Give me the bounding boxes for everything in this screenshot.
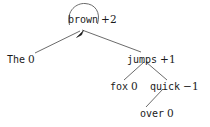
node-jumps[interactable]: jumps+1	[127, 54, 176, 65]
node-the-word: The	[7, 54, 25, 65]
node-quick-word: quick	[150, 81, 180, 92]
node-quick-score: −1	[183, 80, 198, 92]
edge-brown-the	[35, 31, 80, 53]
node-fox-word: fox	[110, 81, 128, 92]
node-jumps-score: +1	[160, 53, 175, 65]
node-over-score: 0	[167, 107, 174, 119]
edge-brown-jumps	[82, 30, 141, 52]
node-brown-word: brown	[68, 14, 98, 25]
node-over[interactable]: over0	[140, 108, 174, 119]
node-fox-score: 0	[131, 80, 138, 92]
node-the[interactable]: The0	[7, 54, 35, 65]
node-over-word: over	[140, 108, 164, 119]
node-brown[interactable]: brown+2	[68, 14, 117, 25]
node-quick[interactable]: quick−1	[150, 81, 199, 92]
node-fox[interactable]: fox0	[110, 81, 138, 92]
node-the-score: 0	[28, 53, 35, 65]
arrowhead-icon	[77, 31, 84, 38]
tree-diagram-canvas: brown+2 The0 jumps+1 fox0 quick−1 over0	[0, 0, 210, 127]
node-jumps-word: jumps	[127, 54, 157, 65]
node-brown-score: +2	[101, 13, 116, 25]
